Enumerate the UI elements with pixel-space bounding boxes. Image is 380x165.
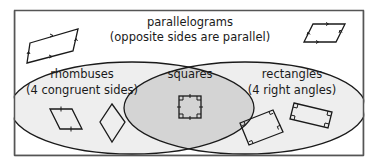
parallelograms-subtitle: (opposite sides are parallel) bbox=[110, 30, 270, 44]
rectangles-title: rectangles bbox=[262, 67, 322, 81]
squares-title: squares bbox=[167, 67, 212, 81]
rhombuses-subtitle: (4 congruent sides) bbox=[26, 83, 138, 97]
parallelograms-title: parallelograms bbox=[147, 15, 233, 29]
rhombuses-title: rhombuses bbox=[50, 67, 114, 81]
venn-diagram: parallelograms (opposite sides are paral… bbox=[0, 0, 380, 165]
rectangles-subtitle: (4 right angles) bbox=[248, 83, 337, 97]
